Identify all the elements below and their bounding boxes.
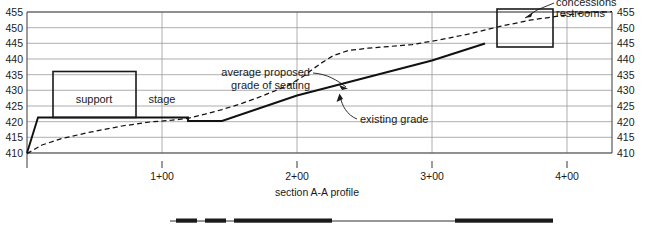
plan-strip-segment-4	[455, 219, 553, 223]
y-label-left-450: 450	[5, 22, 23, 34]
avg-grade-leader-arrowhead	[339, 85, 348, 90]
concessions-leader-arrowhead	[525, 12, 533, 18]
y-axis-labels-left: 455 450 445 440 435 430 425 420 415 410	[5, 6, 23, 159]
y-label-left-440: 440	[5, 53, 23, 65]
gridlines-horizontal	[27, 12, 612, 153]
y-label-left-430: 430	[5, 84, 23, 96]
y-label-right-425: 425	[617, 100, 635, 112]
x-label-1plus00: 1+00	[150, 170, 174, 182]
y-label-right-440: 440	[617, 53, 635, 65]
y-label-right-450: 450	[617, 22, 635, 34]
existing-grade-label: existing grade	[360, 113, 429, 125]
x-axis-labels: 1+00 2+00 3+00 4+00	[150, 170, 579, 182]
y-label-left-410: 410	[5, 147, 23, 159]
support-label: support	[76, 93, 113, 105]
y-label-right-420: 420	[617, 116, 635, 128]
y-label-left-455: 455	[5, 6, 23, 18]
y-label-left-425: 425	[5, 100, 23, 112]
y-axis-labels-right: 455 450 445 440 435 430 425 420 415 410	[617, 6, 635, 159]
x-label-2plus00: 2+00	[285, 170, 309, 182]
profile-chart-svg: 455 450 445 440 435 430 425 420 415 410 …	[0, 0, 652, 226]
plan-strip-segment-2	[205, 219, 226, 223]
y-label-right-445: 445	[617, 37, 635, 49]
y-label-right-430: 430	[617, 84, 635, 96]
section-profile-figure: 455 450 445 440 435 430 425 420 415 410 …	[0, 0, 652, 226]
y-label-right-415: 415	[617, 131, 635, 143]
plan-footprint-strip	[170, 219, 553, 223]
stage-label: stage	[149, 93, 176, 105]
chart-frame	[27, 12, 612, 153]
y-label-left-420: 420	[5, 116, 23, 128]
plan-strip-segment-1	[176, 219, 197, 223]
avg-grade-label-line2: grade of seating	[231, 79, 310, 91]
x-axis-caption: section A-A profile	[275, 186, 359, 198]
x-axis-ticks	[27, 153, 567, 168]
restrooms-label: restrooms	[556, 7, 605, 19]
existing-grade-line	[27, 12, 612, 154]
avg-grade-label-line1: average proposed	[221, 66, 310, 78]
y-label-left-435: 435	[5, 69, 23, 81]
y-label-left-445: 445	[5, 37, 23, 49]
gridlines-vertical	[162, 12, 567, 153]
y-label-right-455: 455	[617, 6, 635, 18]
y-label-left-415: 415	[5, 131, 23, 143]
y-label-right-410: 410	[617, 147, 635, 159]
existing-grade-leader-arrowhead	[337, 94, 344, 103]
plan-strip-segment-3	[234, 219, 332, 223]
x-label-3plus00: 3+00	[420, 170, 444, 182]
existing-grade-leader-line	[340, 96, 357, 119]
x-label-4plus00: 4+00	[555, 170, 579, 182]
y-label-right-435: 435	[617, 69, 635, 81]
